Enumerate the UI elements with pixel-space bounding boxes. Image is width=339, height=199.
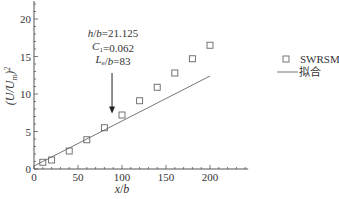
arrow-head-icon [109,107,115,114]
x-tick-label: 150 [158,171,175,183]
square-marker-icon [137,98,143,104]
legend-label-swrsm: SWRSM [300,53,339,65]
chart-container: 05010015020005101520x/b(U/Um)2 h/b=21.12… [0,0,339,199]
y-tick-label: 5 [26,126,32,138]
fit-line-path [34,76,210,166]
y-tick-label: 15 [20,51,32,63]
square-marker-icon [207,42,213,48]
y-tick-label: 0 [26,163,32,175]
annotation-line: C1=0.062 [92,40,134,54]
annotation-line: h/b=21.125 [88,27,139,39]
y-axis-label: (U/Um)2 [3,67,19,105]
square-marker-icon [172,70,178,76]
annotation-line: Le/b=83 [94,53,131,67]
x-tick-label: 200 [202,171,219,183]
x-tick-label: 50 [73,171,85,183]
legend-label-fit: 拟合 [299,65,321,78]
fit-line [34,76,210,166]
x-axis-label: x/b [114,182,130,196]
legend-square-icon [283,56,289,62]
square-marker-icon [189,56,195,62]
legend: SWRSM拟合 [277,53,339,78]
y-tick-label: 20 [20,13,32,25]
square-marker-icon [119,112,125,118]
annotation: h/b=21.125C1=0.062Le/b=83 [88,27,139,114]
y-tick-label: 10 [20,88,32,100]
x-tick-label: 0 [31,171,37,183]
scatter-plot: 05010015020005101520x/b(U/Um)2 h/b=21.12… [0,0,339,199]
square-marker-icon [154,84,160,90]
